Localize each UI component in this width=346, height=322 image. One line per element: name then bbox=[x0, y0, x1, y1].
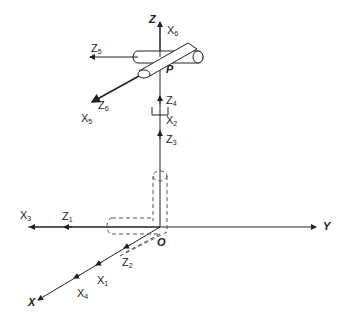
x3-label: X3 bbox=[20, 210, 31, 222]
z-axis-label: Z bbox=[149, 14, 156, 25]
x6-label: X6 bbox=[167, 25, 178, 37]
z1-label: Z1 bbox=[62, 211, 73, 223]
z3-label: Z3 bbox=[166, 134, 177, 146]
z2-label: Z2 bbox=[122, 257, 133, 269]
x1-label: X1 bbox=[97, 275, 108, 287]
robot-frame-diagram bbox=[0, 0, 346, 322]
x5-label: X5 bbox=[81, 113, 92, 125]
x2-label: X2 bbox=[166, 115, 177, 127]
x4-label: X4 bbox=[77, 288, 88, 300]
origin-label: O bbox=[157, 237, 166, 248]
point-p-label: P bbox=[166, 64, 173, 75]
y-axis-label: Y bbox=[323, 221, 330, 232]
z4-label: Z4 bbox=[166, 95, 177, 107]
z6-label: Z6 bbox=[98, 100, 109, 112]
x-axis-label: X bbox=[28, 297, 35, 308]
z5-label: Z5 bbox=[91, 43, 102, 55]
